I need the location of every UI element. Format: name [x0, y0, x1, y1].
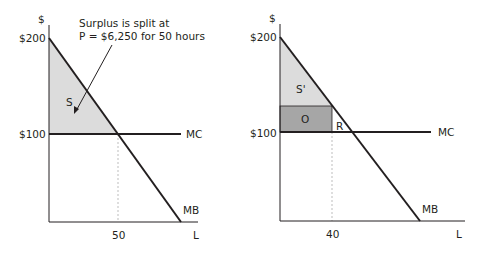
mb-label: MB	[183, 204, 199, 216]
region-label-s-prime: S'	[296, 83, 306, 95]
y-axis-label: $	[38, 13, 45, 25]
mc-label: MC	[186, 128, 202, 140]
x-axis-label: L	[193, 229, 199, 241]
y-tick-200: $200	[19, 32, 46, 44]
x-tick-40: 40	[326, 228, 339, 240]
surplus-diagram: $ $200 $100 50 L MC MB S Surplus is spli…	[0, 0, 480, 254]
mb-label: MB	[422, 203, 438, 215]
x-axis-label: L	[456, 228, 462, 240]
right-panel: $ $200 $100 40 L MC MB S' O R	[250, 12, 465, 240]
y-tick-200: $200	[250, 31, 277, 43]
y-tick-100: $100	[19, 128, 46, 140]
y-axis-label: $	[269, 12, 276, 24]
annotation-line-1: Surplus is split at	[79, 17, 169, 29]
region-label-o: O	[301, 113, 309, 125]
y-tick-100: $100	[250, 127, 277, 139]
mc-label: MC	[438, 126, 454, 138]
left-panel: $ $200 $100 50 L MC MB S Surplus is spli…	[19, 13, 205, 241]
x-tick-50: 50	[112, 229, 125, 241]
annotation-line-2: P = $6,250 for 50 hours	[79, 30, 205, 42]
region-label-r: R	[336, 120, 343, 132]
region-label-s: S	[66, 96, 73, 108]
